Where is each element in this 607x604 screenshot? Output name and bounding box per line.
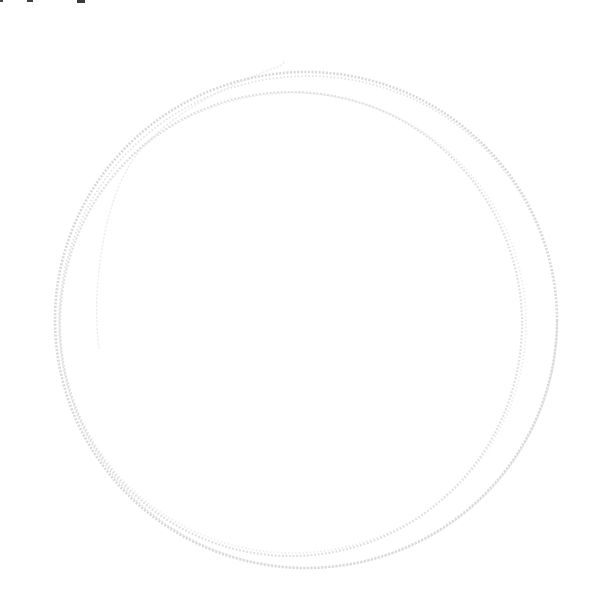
cropped-glyph-artifact bbox=[0, 0, 3, 2]
cropped-glyph-artifact bbox=[77, 0, 85, 3]
start-tail-stroke bbox=[97, 62, 284, 348]
outer-loop-echo bbox=[59, 76, 557, 568]
circle-sketch bbox=[0, 0, 607, 604]
cropped-glyph-artifact bbox=[27, 0, 33, 2]
sketch-canvas bbox=[0, 0, 607, 604]
